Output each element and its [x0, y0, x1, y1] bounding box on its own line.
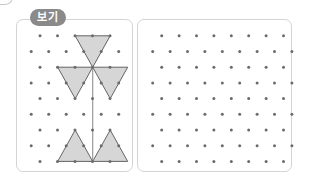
grid-dot[interactable] [160, 97, 163, 100]
grid-dot[interactable] [221, 144, 224, 147]
grid-dot[interactable] [160, 34, 163, 37]
grid-dot[interactable] [230, 160, 233, 163]
grid-dot [65, 113, 68, 116]
grid-dot[interactable] [203, 81, 206, 84]
grid-dot[interactable] [195, 66, 198, 69]
grid-dot [109, 160, 112, 163]
grid-dot[interactable] [178, 66, 181, 69]
grid-dot [109, 97, 112, 100]
grid-dot[interactable] [169, 50, 172, 53]
grid-dot [91, 97, 94, 100]
grid-dot [30, 113, 33, 116]
grid-dot [109, 129, 112, 132]
grid-dot[interactable] [212, 97, 215, 100]
lower-right-triangle [93, 130, 128, 161]
grid-dot[interactable] [169, 113, 172, 116]
grid-dot[interactable] [247, 160, 250, 163]
grid-dot[interactable] [178, 97, 181, 100]
grid-dot[interactable] [290, 113, 293, 116]
grid-dot [56, 129, 59, 132]
grid-dot[interactable] [230, 97, 233, 100]
grid-dot[interactable] [178, 129, 181, 132]
grid-dot [100, 50, 103, 53]
grid-dot[interactable] [195, 160, 198, 163]
grid-dot[interactable] [273, 81, 276, 84]
grid-dot[interactable] [273, 113, 276, 116]
upper-right-triangle [93, 67, 128, 98]
grid-dot[interactable] [212, 34, 215, 37]
grid-dot[interactable] [178, 160, 181, 163]
grid-dot[interactable] [212, 160, 215, 163]
grid-dot[interactable] [290, 144, 293, 147]
grid-dot[interactable] [290, 81, 293, 84]
grid-dot[interactable] [265, 97, 268, 100]
grid-dot[interactable] [221, 81, 224, 84]
grid-dot [100, 144, 103, 147]
grid-dot[interactable] [151, 144, 154, 147]
grid-dot[interactable] [256, 50, 259, 53]
grid-dot [91, 129, 94, 132]
grid-dot[interactable] [265, 160, 268, 163]
grid-dot[interactable] [203, 113, 206, 116]
example-badge: 보기 [30, 9, 66, 26]
grid-dot[interactable] [282, 34, 285, 37]
grid-dot[interactable] [160, 66, 163, 69]
grid-dot[interactable] [282, 66, 285, 69]
grid-dot[interactable] [160, 129, 163, 132]
grid-dot[interactable] [238, 81, 241, 84]
grid-dot[interactable] [247, 97, 250, 100]
grid-dot[interactable] [186, 113, 189, 116]
grid-dot[interactable] [186, 81, 189, 84]
grid-dot[interactable] [282, 129, 285, 132]
grid-dot[interactable] [230, 66, 233, 69]
lower-left-triangle [58, 130, 93, 161]
grid-dot[interactable] [212, 129, 215, 132]
grid-dot [82, 81, 85, 84]
grid-dot [117, 113, 120, 116]
grid-dot[interactable] [178, 34, 181, 37]
grid-dot [65, 50, 68, 53]
grid-dot[interactable] [195, 97, 198, 100]
grid-dot[interactable] [247, 34, 250, 37]
grid-dot [74, 66, 77, 69]
grid-dot[interactable] [265, 34, 268, 37]
grid-dot[interactable] [151, 113, 154, 116]
grid-dot[interactable] [238, 50, 241, 53]
grid-dot[interactable] [290, 50, 293, 53]
grid-dot[interactable] [212, 66, 215, 69]
grid-dot[interactable] [160, 160, 163, 163]
grid-dot[interactable] [203, 144, 206, 147]
grid-dot[interactable] [238, 144, 241, 147]
grid-dot[interactable] [195, 129, 198, 132]
grid-dot[interactable] [256, 113, 259, 116]
grid-dot[interactable] [169, 81, 172, 84]
grid-dot[interactable] [247, 129, 250, 132]
grid-dot[interactable] [186, 144, 189, 147]
grid-dot [30, 144, 33, 147]
grid-dot[interactable] [221, 113, 224, 116]
grid-dot[interactable] [151, 81, 154, 84]
grid-dot[interactable] [186, 50, 189, 53]
grid-dot[interactable] [282, 97, 285, 100]
grid-dot[interactable] [256, 81, 259, 84]
grid-dot [56, 97, 59, 100]
grid-dot[interactable] [238, 113, 241, 116]
grid-dot[interactable] [230, 34, 233, 37]
grid-dot[interactable] [273, 50, 276, 53]
grid-dot[interactable] [282, 160, 285, 163]
grid-dot[interactable] [273, 144, 276, 147]
grid-dot [117, 81, 120, 84]
upper-left-triangle [58, 67, 93, 98]
grid-dot[interactable] [221, 50, 224, 53]
grid-dot[interactable] [195, 34, 198, 37]
grid-dot[interactable] [247, 66, 250, 69]
grid-dot[interactable] [265, 129, 268, 132]
grid-dot[interactable] [256, 144, 259, 147]
answer-dot-grid[interactable] [151, 34, 293, 163]
grid-dot[interactable] [151, 50, 154, 53]
grid-dot [100, 113, 103, 116]
grid-dot[interactable] [230, 129, 233, 132]
grid-dot[interactable] [169, 144, 172, 147]
grid-dot[interactable] [265, 66, 268, 69]
grid-dot[interactable] [203, 50, 206, 53]
